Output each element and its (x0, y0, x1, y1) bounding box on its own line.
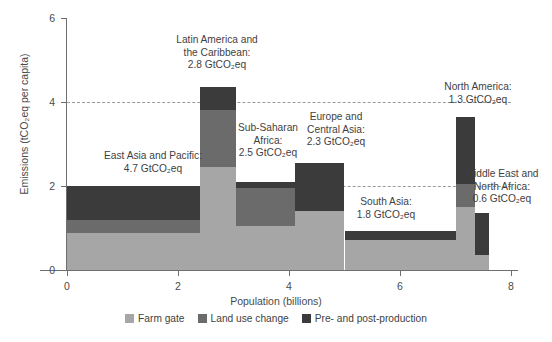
bar-segment-pre-and-post-production (475, 213, 489, 255)
legend-label-farm-gate: Farm gate (138, 313, 184, 324)
x-tick-mark-8 (511, 271, 512, 276)
y-tick-label-2: 2 (33, 181, 55, 192)
bar-segment-land-use-change (67, 220, 200, 233)
bar-segment-farm-gate (295, 211, 345, 270)
annotation-south-asia: South Asia: 1.8 GtCO₂eq (338, 196, 434, 221)
chart-container: 0 2 4 6 0 2 4 6 8 Emissions (tCO₂eq per … (0, 0, 552, 342)
y-tick-mark-0 (61, 270, 66, 271)
legend-label-land-use-change: Land use change (211, 313, 289, 324)
bar-segment-farm-gate (475, 255, 489, 270)
annotation-latin-america: Latin America and the Caribbean: 2.8 GtC… (158, 34, 276, 72)
x-tick-label-8: 8 (498, 280, 524, 292)
y-axis-title: Emissions (tCO₂eq per capita) (18, 34, 30, 214)
x-axis-title: Population (billions) (0, 295, 552, 307)
bar-segment-land-use-change (236, 188, 294, 226)
annotation-north-america: North America: 1.3 GtCO₂eq (430, 81, 526, 106)
chart-title-clipped (0, 0, 552, 5)
bar-segment-farm-gate (456, 207, 475, 270)
x-tick-label-6: 6 (387, 280, 413, 292)
legend-swatch-farm-gate (125, 314, 134, 323)
bar-segment-farm-gate (200, 167, 236, 270)
annotation-middle-east: Middle East and North Africa: 0.6 GtCO₂e… (452, 168, 552, 206)
chart-legend: Farm gate Land use change Pre- and post-… (0, 313, 552, 324)
bar-segment-pre-and-post-production (200, 87, 236, 110)
legend-swatch-pre-post-production (302, 314, 311, 323)
bar-segment-pre-and-post-production (295, 163, 345, 211)
bar-north-america[interactable] (456, 18, 475, 270)
bar-segment-pre-and-post-production (67, 186, 200, 220)
legend-item-pre-post-production[interactable]: Pre- and post-production (302, 313, 427, 324)
legend-swatch-land-use-change (198, 314, 207, 323)
bar-middle-east-and-north-africa[interactable] (475, 18, 489, 270)
x-tick-mark-4 (289, 271, 290, 276)
y-tick-label-4: 4 (33, 97, 55, 108)
bar-segment-farm-gate (236, 226, 294, 270)
x-axis-line (40, 270, 518, 271)
x-tick-label-2: 2 (165, 280, 191, 292)
x-tick-mark-0 (67, 271, 68, 276)
legend-item-land-use-change[interactable]: Land use change (198, 313, 289, 324)
legend-label-pre-post-production: Pre- and post-production (315, 313, 427, 324)
annotation-east-asia: East Asia and Pacific: 4.7 GtCO₂eq (88, 150, 218, 175)
legend-item-farm-gate[interactable]: Farm gate (125, 313, 184, 324)
bar-segment-farm-gate (67, 233, 200, 270)
y-tick-mark-2 (61, 186, 66, 187)
x-tick-label-4: 4 (276, 280, 302, 292)
y-tick-label-0: 0 (33, 265, 55, 276)
y-tick-mark-4 (61, 102, 66, 103)
y-tick-mark-6 (61, 18, 66, 19)
annotation-europe: Europe and Central Asia: 2.3 GtCO₂eq (296, 111, 376, 149)
x-tick-mark-6 (400, 271, 401, 276)
bar-segment-farm-gate (345, 240, 456, 270)
bar-segment-pre-and-post-production (236, 182, 294, 188)
y-tick-label-6: 6 (33, 13, 55, 24)
x-tick-label-0: 0 (54, 280, 80, 292)
x-tick-mark-2 (178, 271, 179, 276)
bar-segment-pre-and-post-production (345, 231, 456, 239)
